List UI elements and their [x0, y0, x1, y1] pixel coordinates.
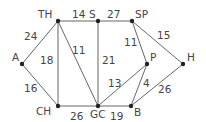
- node-h: [181, 62, 185, 66]
- edge-weight-h-b: 26: [158, 83, 172, 95]
- edge-weight-th-gc: 11: [72, 44, 85, 56]
- edge-weight-gc-b: 19: [110, 110, 123, 122]
- node-label-s: S: [89, 8, 96, 20]
- edge-weight-a-th: 24: [24, 30, 38, 42]
- node-label-h: H: [187, 51, 195, 63]
- node-ch: [56, 104, 60, 108]
- node-label-b: B: [134, 106, 141, 118]
- node-a: [20, 62, 24, 66]
- edge-weight-sp-h: 15: [157, 29, 170, 41]
- node-b: [129, 104, 133, 108]
- graph-diagram: 142724181121111516261913426 THSSPAPHCHGC…: [0, 0, 206, 122]
- edge-weight-s-sp: 27: [107, 8, 120, 20]
- node-label-ch: CH: [36, 105, 51, 117]
- node-label-a: A: [12, 51, 20, 63]
- edge-weight-a-ch: 16: [24, 82, 38, 94]
- edge-weight-p-b: 4: [143, 77, 150, 89]
- edge-weight-th-s: 14: [72, 8, 86, 20]
- node-th: [56, 19, 60, 23]
- edge-weight-s-gc: 21: [102, 54, 115, 66]
- edge-weight-ch-gc: 26: [70, 110, 84, 122]
- edge-weight-th-ch: 18: [40, 54, 53, 66]
- node-label-sp: SP: [135, 8, 148, 20]
- node-sp: [130, 19, 134, 23]
- node-s: [96, 19, 100, 23]
- edge-weight-sp-p: 11: [124, 36, 137, 48]
- node-label-th: TH: [37, 8, 52, 20]
- edge-weight-gc-p: 13: [108, 77, 121, 89]
- edge-gc-p: [98, 64, 147, 106]
- node-p: [145, 62, 149, 66]
- node-label-gc: GC: [90, 108, 105, 120]
- node-label-p: P: [150, 51, 156, 63]
- edge-th-gc: [58, 21, 98, 106]
